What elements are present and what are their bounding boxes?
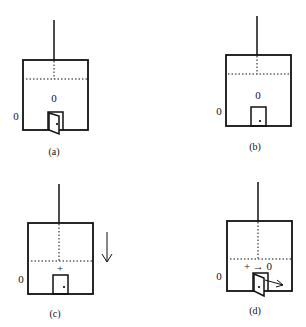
caption-c: (c) (49, 308, 60, 320)
inside-label-c: + (57, 262, 63, 274)
outside-label-a: 0 (13, 110, 19, 122)
elevator-diagram: 0 0 (a) 0 0 (b) + 0 (c) + → 0 0 (d) (0, 0, 306, 327)
panel-d (227, 182, 292, 296)
panel-b (226, 16, 291, 126)
elevator-box (28, 223, 93, 294)
outside-label-b: 0 (216, 105, 222, 117)
caption-b: (b) (249, 141, 261, 153)
inside-label-b: 0 (255, 89, 261, 101)
caption-a: (a) (48, 146, 59, 158)
caption-d: (d) (249, 305, 261, 317)
inside-label-d: + → 0 (244, 260, 273, 272)
panel-a (23, 20, 88, 134)
outside-label-d: 0 (216, 270, 222, 282)
panel-c (28, 184, 112, 294)
door-closed-icon (53, 275, 68, 294)
inside-label-a: 0 (51, 92, 57, 104)
outside-label-c: 0 (18, 273, 24, 285)
door-open-icon (253, 273, 268, 296)
door-closed-icon (251, 107, 266, 126)
arrow-down-icon (102, 232, 112, 262)
